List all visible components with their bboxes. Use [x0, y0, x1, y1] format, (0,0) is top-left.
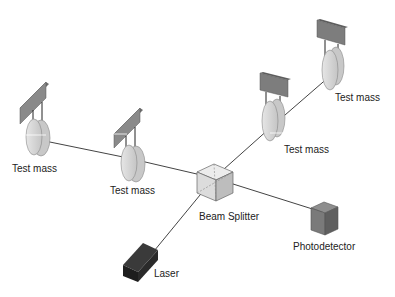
photodetector-front: [311, 208, 325, 235]
label-test-mass-left-far: Test mass: [12, 163, 57, 174]
support-bar-face: [317, 20, 345, 45]
interferometer-diagram: Test mass Test mass Test mass Test mass: [0, 0, 395, 297]
test-mass-left-near: [114, 108, 145, 182]
test-mass-right-near: [260, 72, 291, 141]
laser: [123, 243, 158, 282]
label-test-mass-left-near: Test mass: [110, 185, 155, 196]
label-photodetector: Photodetector: [293, 241, 356, 252]
support-bar-face: [260, 73, 288, 97]
photodetector: [311, 202, 338, 235]
mirror-face: [262, 101, 278, 141]
mirror-face: [26, 119, 42, 155]
label-test-mass-right-far: Test mass: [335, 92, 380, 103]
beam-splitter: [197, 164, 233, 201]
mirror-face: [322, 50, 338, 90]
test-mass-right-far: [317, 19, 348, 90]
test-mass-left-far: [20, 82, 50, 156]
mirror-face: [121, 145, 137, 181]
label-test-mass-right-near: Test mass: [284, 144, 329, 155]
label-laser: Laser: [154, 268, 180, 279]
support-bar-face: [114, 108, 140, 148]
label-beam-splitter: Beam Splitter: [199, 211, 260, 222]
laser-beams: [40, 76, 330, 262]
